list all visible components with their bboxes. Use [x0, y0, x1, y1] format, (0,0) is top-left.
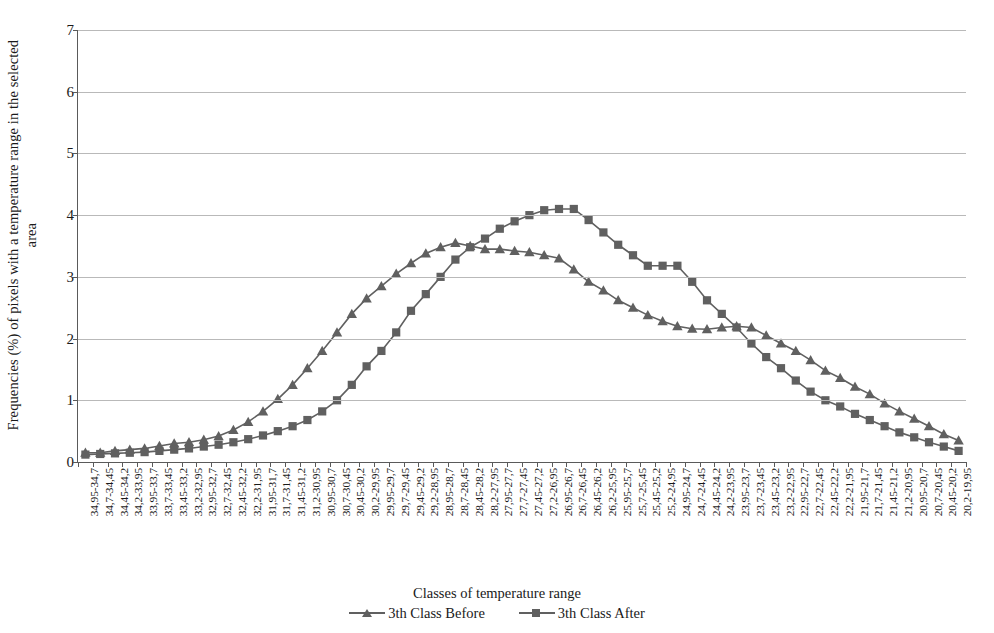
x-tick-mark	[152, 462, 153, 467]
x-axis-tick-label: 27,45-27,2	[533, 468, 544, 516]
marker-triangle	[894, 406, 904, 415]
x-tick-mark	[700, 462, 701, 467]
series-line	[85, 209, 958, 455]
x-tick-mark	[685, 462, 686, 467]
marker-triangle	[835, 373, 845, 382]
marker-square	[126, 449, 134, 457]
x-axis-tick-label: 31,7-31,45	[281, 468, 292, 516]
marker-square	[747, 339, 755, 347]
marker-square	[881, 422, 889, 430]
x-tick-mark	[803, 462, 804, 467]
x-axis-tick-label: 26,95-26,7	[563, 468, 574, 516]
marker-square	[451, 255, 459, 263]
x-tick-mark	[404, 462, 405, 467]
marker-square	[614, 241, 622, 249]
x-tick-mark	[892, 462, 893, 467]
y-axis-title-line1: Frequencies (%) of pixels with a tempera…	[5, 40, 21, 431]
x-tick-mark	[626, 462, 627, 467]
y-axis-tick-label: 0	[52, 455, 74, 470]
y-tick-mark	[73, 153, 78, 154]
x-tick-mark	[122, 462, 123, 467]
x-tick-mark	[922, 462, 923, 467]
marker-square	[599, 228, 607, 236]
marker-square	[289, 422, 297, 430]
chart-figure: Frequencies (%) of pixels with a tempera…	[0, 0, 994, 633]
square-icon	[532, 609, 540, 617]
marker-square	[274, 427, 282, 435]
marker-triangle	[791, 346, 801, 355]
marker-square	[733, 323, 741, 331]
marker-square	[244, 435, 252, 443]
marker-triangle	[421, 248, 431, 257]
y-tick-mark	[73, 400, 78, 401]
marker-square	[540, 206, 548, 214]
x-axis-tick-label: 25,45-25,2	[651, 468, 662, 516]
marker-square	[303, 416, 311, 424]
x-axis-tick-label: 23,7-23,45	[755, 468, 766, 516]
x-axis-tick-label: 34,95-34,7	[89, 468, 100, 516]
marker-square	[585, 216, 593, 224]
x-axis-tick-label: 20,95-20,7	[918, 468, 929, 516]
x-tick-mark	[611, 462, 612, 467]
y-axis-tick-labels: 01234567	[52, 0, 74, 480]
x-axis-tick-label: 33,95-33,7	[148, 468, 159, 516]
x-tick-mark	[670, 462, 671, 467]
legend-item[interactable]: 3th Class After	[519, 606, 645, 621]
marker-square	[673, 262, 681, 270]
x-tick-mark	[936, 462, 937, 467]
marker-triangle	[569, 264, 579, 273]
marker-square	[762, 353, 770, 361]
x-tick-mark	[848, 462, 849, 467]
x-tick-mark	[833, 462, 834, 467]
x-tick-mark	[211, 462, 212, 467]
x-axis-tick-label: 22,95-22,7	[799, 468, 810, 516]
marker-square	[644, 262, 652, 270]
y-axis-tick-label: 6	[52, 84, 74, 99]
x-tick-mark	[344, 462, 345, 467]
x-axis-tick-label: 34,7-34,45	[104, 468, 115, 516]
marker-square	[215, 441, 223, 449]
gridline	[78, 277, 966, 278]
x-axis-tick-label: 24,95-24,7	[681, 468, 692, 516]
x-axis-tick-label: 21,2-20,95	[903, 468, 914, 516]
x-axis-tick-label: 28,45-28,2	[474, 468, 485, 516]
x-axis-tick-label: 29,7-29,45	[400, 468, 411, 516]
x-axis-tick-labels: 34,95-34,734,7-34,4534,45-34,234,2-33,95…	[77, 468, 965, 580]
marker-square	[111, 449, 119, 457]
x-tick-mark	[581, 462, 582, 467]
x-tick-mark	[640, 462, 641, 467]
marker-triangle	[924, 421, 934, 430]
marker-square	[807, 388, 815, 396]
legend-item[interactable]: 3th Class Before	[349, 606, 485, 621]
marker-triangle	[939, 429, 949, 438]
gridline	[78, 215, 966, 216]
marker-square	[570, 205, 578, 213]
marker-square	[955, 447, 963, 455]
marker-square	[718, 310, 726, 318]
x-tick-mark	[907, 462, 908, 467]
x-axis-tick-label: 27,95-27,7	[503, 468, 514, 516]
x-axis-tick-label: 33,45-33,2	[178, 468, 189, 516]
x-axis-tick-label: 32,95-32,7	[207, 468, 218, 516]
x-axis-tick-label: 33,7-33,45	[163, 468, 174, 516]
x-axis-tick-label: 22,7-22,45	[814, 468, 825, 516]
x-axis-tick-label: 23,2-22,95	[785, 468, 796, 516]
x-tick-mark	[300, 462, 301, 467]
x-tick-mark	[759, 462, 760, 467]
marker-triangle	[953, 435, 963, 444]
marker-square	[81, 450, 89, 458]
x-tick-mark	[507, 462, 508, 467]
y-axis-title: Frequencies (%) of pixels with a tempera…	[2, 0, 42, 470]
marker-triangle	[213, 431, 223, 440]
x-axis-tick-label: 31,2-30,95	[311, 468, 322, 516]
x-axis-tick-label: 32,2-31,95	[252, 468, 263, 516]
gridline	[78, 92, 966, 93]
x-axis-tick-label: 20,7-20,45	[933, 468, 944, 516]
x-axis-tick-label: 32,7-32,45	[222, 468, 233, 516]
y-tick-mark	[73, 277, 78, 278]
x-axis-tick-label: 34,2-33,95	[133, 468, 144, 516]
marker-triangle	[805, 355, 815, 364]
x-tick-mark	[966, 462, 967, 467]
x-tick-mark	[330, 462, 331, 467]
marker-square	[688, 278, 696, 286]
